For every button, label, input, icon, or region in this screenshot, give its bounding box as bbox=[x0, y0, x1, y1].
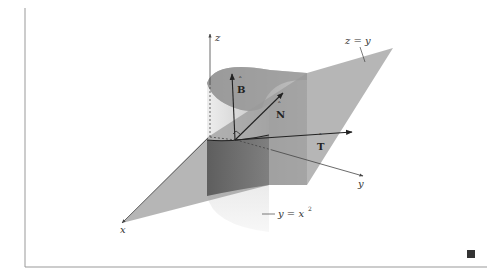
svg-text:2: 2 bbox=[308, 205, 312, 212]
svg-text:y = x: y = x bbox=[277, 208, 304, 219]
end-of-proof-mark bbox=[467, 250, 475, 258]
x-axis-label: x bbox=[120, 224, 126, 235]
cylinder-label: y = x 2 bbox=[277, 205, 312, 219]
tnb-diagram: z x y B ˆ N ˆ T ˆ z = y y = x 2 bbox=[0, 0, 487, 270]
svg-text:B: B bbox=[237, 84, 245, 95]
svg-text:N: N bbox=[276, 109, 285, 120]
svg-text:T: T bbox=[317, 141, 325, 152]
hat-mark: ˆ bbox=[278, 100, 282, 109]
plane-label: z = y bbox=[344, 35, 371, 46]
y-axis-label: y bbox=[357, 178, 364, 189]
z-axis-label: z bbox=[214, 32, 221, 43]
hat-mark: ˆ bbox=[319, 132, 323, 141]
hat-mark: ˆ bbox=[239, 75, 243, 84]
